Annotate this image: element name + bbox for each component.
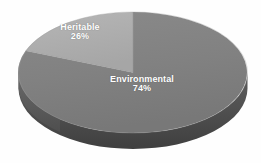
pie-chart-figure: Heritable 26% Environmental 74% [0,0,261,163]
pie-chart-canvas [0,0,261,163]
